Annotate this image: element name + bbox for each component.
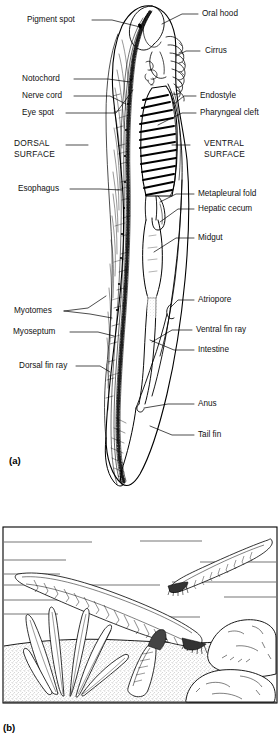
label-metapleural-fold: Metapleural fold (198, 189, 256, 199)
label-ventral-fin-ray: Ventral fin ray (196, 325, 246, 335)
label-dorsal-fin-ray: Dorsal fin ray (19, 361, 67, 371)
label-myoseptum: Myoseptum (13, 327, 55, 337)
label-pigment-spot: Pigment spot (27, 15, 75, 25)
label-tail-fin: Tail fin (198, 430, 221, 440)
label-midgut: Midgut (198, 233, 223, 243)
label-esophagus: Esophagus (18, 184, 59, 194)
label-myotomes: Myotomes (14, 306, 52, 316)
label-eye-spot: Eye spot (22, 108, 54, 118)
label-ventral-surface: VENTRAL SURFACE (204, 139, 245, 159)
panel-a-letter: (a) (9, 455, 21, 466)
lancelet-anatomy-figure: Pigment spot Notochord Nerve cord Eye sp… (0, 0, 280, 735)
label-notochord: Notochord (22, 74, 60, 84)
label-oral-hood: Oral hood (202, 9, 238, 19)
label-nerve-cord: Nerve cord (22, 91, 62, 101)
label-cirrus: Cirrus (205, 46, 227, 56)
label-atriopore: Atriopore (198, 295, 231, 305)
label-pharyngeal-cleft: Pharyngeal cleft (200, 108, 259, 118)
label-endostyle: Endostyle (200, 91, 236, 101)
label-intestine: Intestine (198, 345, 229, 355)
label-dorsal-surface: DORSAL SURFACE (14, 139, 55, 159)
panel-b-letter: (b) (3, 722, 15, 733)
panel-b-drawing (0, 522, 280, 732)
label-anus: Anus (198, 399, 217, 409)
label-hepatic-cecum: Hepatic cecum (198, 204, 252, 214)
